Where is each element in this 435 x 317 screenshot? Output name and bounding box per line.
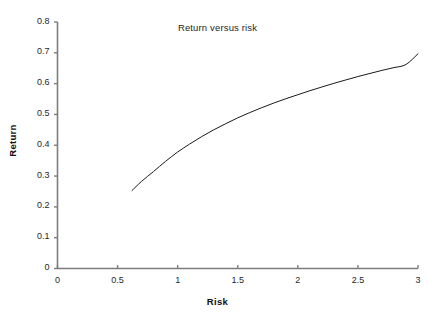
x-tick-label: 0.5 [101, 275, 135, 285]
x-tick-label: 3 [401, 275, 435, 285]
plot-canvas [0, 0, 435, 317]
y-tick-label: 0.7 [16, 46, 50, 56]
y-tick-label: 0.5 [16, 108, 50, 118]
x-tick-label: 2.5 [341, 275, 375, 285]
y-tick-label: 0.3 [16, 170, 50, 180]
x-tick-label: 0 [41, 275, 75, 285]
x-axis-title: Risk [0, 296, 435, 307]
y-tick-label: 0.1 [16, 231, 50, 241]
data-series-line [132, 54, 418, 191]
y-tick-label: 0.2 [16, 200, 50, 210]
y-tick-label: 0.6 [16, 77, 50, 87]
y-tick-label: 0 [16, 262, 50, 272]
x-tick-label: 2 [281, 275, 315, 285]
x-tick-label: 1.5 [221, 275, 255, 285]
y-tick-label: 0.8 [16, 16, 50, 26]
x-tick-label: 1 [161, 275, 195, 285]
y-tick-label: 0.4 [16, 139, 50, 149]
chart-figure: Return versus risk Risk Return 00.10.20.… [0, 0, 435, 317]
